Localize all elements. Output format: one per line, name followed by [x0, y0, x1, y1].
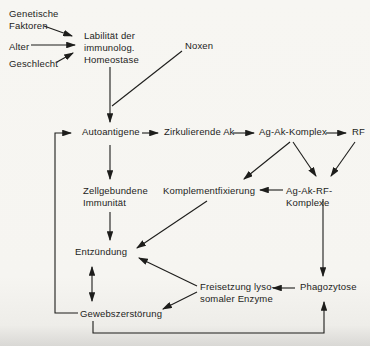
node-zirkulierende-ak: Zirkulierende Ak	[164, 126, 235, 138]
node-gewebszerstoerung: Gewebszerstörung	[80, 308, 162, 320]
node-entzuendung: Entzündung	[75, 246, 127, 258]
node-phagozytose: Phagozytose	[300, 281, 357, 293]
node-freisetzung-lysosomaler-enzyme: Freisetzung lyso- somaler Enzyme	[200, 281, 275, 305]
arrow-freisetzung-to-entzuendung	[139, 258, 197, 286]
node-genetische-faktoren: Genetische Faktoren	[9, 8, 59, 32]
arrow-ag-ak-komplex-to-ag-ak-rf-komplexe	[293, 142, 316, 176]
node-ag-ak-komplex: Ag-Ak-Komplex	[259, 126, 327, 138]
pathogenesis-flowchart: Genetische Faktoren Alter Geschlecht Lab…	[0, 0, 370, 346]
arrow-ag-ak-komplex-to-komplementfixierung	[244, 142, 290, 179]
arrow-gewebszerstoerung-to-autoantigene	[55, 133, 78, 313]
node-ag-ak-rf-komplexe: Ag-Ak-RF-Komplexe	[286, 185, 370, 209]
node-komplementfixierung: Komplementfixierung	[163, 185, 255, 197]
node-zellgebundene-immunitaet: Zellgebundene Immunität	[83, 185, 148, 209]
node-autoantigene: Autoantigene	[82, 126, 140, 138]
arrow-geschlecht-to-labilitaet	[57, 53, 73, 62]
node-alter: Alter	[9, 41, 29, 53]
arrow-freisetzung-to-gewebszerstoerung	[163, 292, 197, 309]
node-geschlecht: Geschlecht	[9, 58, 58, 70]
node-noxen: Noxen	[185, 40, 213, 52]
node-labilitaet-der-immunolog-homeostase: Labilität der immunolog. Homeostase	[84, 30, 139, 66]
node-rf: RF	[352, 126, 365, 138]
arrow-rf-to-ag-ak-rf-komplexe	[331, 142, 355, 176]
